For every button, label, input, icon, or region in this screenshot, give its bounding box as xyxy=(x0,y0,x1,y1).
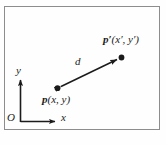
y-axis-label: y xyxy=(16,65,21,76)
displacement-vector xyxy=(61,60,117,87)
point-marker-destination xyxy=(119,55,125,61)
point-coords-destination: (x′, y′) xyxy=(112,33,139,45)
point-label-destination: p′(x′, y′) xyxy=(103,34,139,45)
point-coords-source: (x, y) xyxy=(48,93,71,105)
distance-label: d xyxy=(75,56,81,67)
point-symbol-destination: p′ xyxy=(103,33,112,45)
x-axis-label: x xyxy=(61,112,66,123)
diagram-canvas xyxy=(0,0,166,145)
figure-root: p′(x′, y′) p(x, y) d y x O xyxy=(0,0,166,145)
point-label-source: p(x, y) xyxy=(42,94,70,105)
origin-label: O xyxy=(7,112,15,123)
point-marker-source xyxy=(55,85,61,91)
